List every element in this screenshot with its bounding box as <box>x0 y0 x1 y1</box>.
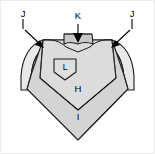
callout-label-k: K <box>75 10 82 21</box>
callout-label-j-right: J <box>130 8 135 19</box>
figure-container: J K J H I L <box>0 0 155 154</box>
part-label-l: L <box>63 62 68 72</box>
callout-label-j-left: J <box>21 8 26 19</box>
part-label-h: H <box>75 83 82 94</box>
garment-technical-drawing: J K J H I L <box>0 0 155 154</box>
part-label-i: I <box>77 111 80 122</box>
